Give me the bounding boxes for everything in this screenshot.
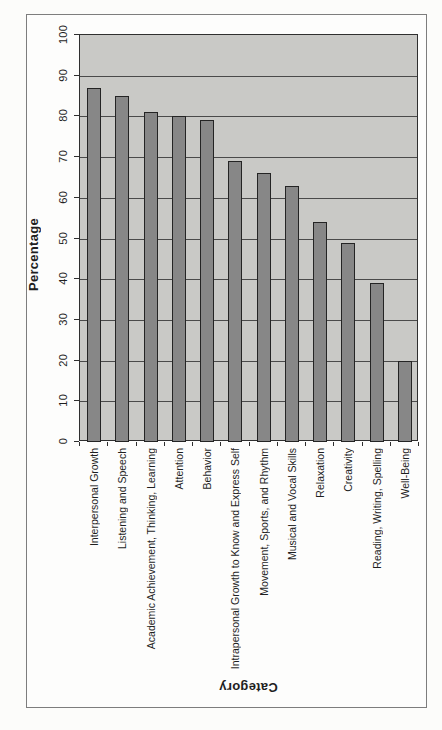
x-category-text: Academic Achievement, Thinking, Learning xyxy=(145,448,157,649)
x-tick-mark xyxy=(249,442,250,446)
y-tick-value: 40 xyxy=(57,272,69,285)
y-tick-value: 0 xyxy=(57,438,69,444)
y-tick-label: 100 xyxy=(51,12,75,56)
x-tick-mark xyxy=(390,442,391,446)
gridline xyxy=(80,279,417,280)
x-category-text: Creativity xyxy=(342,448,354,492)
x-tick-mark xyxy=(220,442,221,446)
gridline xyxy=(80,320,417,321)
x-tick-mark xyxy=(305,442,306,446)
x-category-text: Interpersonal Growth xyxy=(88,448,100,546)
x-category-text: Well-Being xyxy=(399,448,411,499)
plot-area xyxy=(79,34,418,441)
x-category-label: Creativity xyxy=(333,448,362,688)
x-tick-mark xyxy=(418,442,419,446)
bar xyxy=(228,161,242,442)
bar xyxy=(313,222,327,442)
y-tick-value: 10 xyxy=(57,394,69,407)
x-category-text: Movement, Sports, and Rhythm xyxy=(258,448,270,596)
y-tick-value: 20 xyxy=(57,354,69,367)
x-category-text: Relaxation xyxy=(314,448,326,498)
y-tick-mark xyxy=(74,75,79,76)
x-category-label: Relaxation xyxy=(305,448,334,688)
bar xyxy=(200,120,214,442)
y-tick-value: 80 xyxy=(57,109,69,122)
x-category-label: Attention xyxy=(164,448,193,688)
y-tick-label: 30 xyxy=(51,297,75,341)
x-category-label: Movement, Sports, and Rhythm xyxy=(249,448,278,688)
x-category-text: Attention xyxy=(173,448,185,489)
y-tick-label: 50 xyxy=(51,216,75,260)
y-tick-mark xyxy=(74,319,79,320)
y-tick-label: 40 xyxy=(51,256,75,300)
gridline xyxy=(80,76,417,77)
y-axis-title: Percentage xyxy=(26,218,41,291)
y-tick-mark xyxy=(74,238,79,239)
bar xyxy=(257,173,271,442)
x-category-label: Behavior xyxy=(192,448,221,688)
y-tick-value: 50 xyxy=(57,232,69,245)
x-category-label: Reading, Writing, Spelling xyxy=(362,448,391,688)
x-category-label: Well-Being xyxy=(390,448,419,688)
bar xyxy=(341,243,355,442)
y-tick-mark xyxy=(74,278,79,279)
bar xyxy=(172,116,186,442)
y-tick-label: 20 xyxy=(51,338,75,382)
y-tick-mark xyxy=(74,34,79,35)
x-tick-mark xyxy=(277,442,278,446)
bar xyxy=(115,96,129,442)
x-category-text: Listening and Speech xyxy=(116,448,128,549)
y-tick-mark xyxy=(74,400,79,401)
x-category-label: Musical and Vocal Skills xyxy=(277,448,306,688)
x-tick-mark xyxy=(192,442,193,446)
gridline xyxy=(80,116,417,117)
bar xyxy=(370,283,384,442)
x-category-text: Intrapersonal Growth to Know and Express… xyxy=(229,448,241,669)
x-category-label: Intrapersonal Growth to Know and Express… xyxy=(220,448,249,688)
x-tick-mark xyxy=(164,442,165,446)
bar xyxy=(285,186,299,442)
y-tick-value: 60 xyxy=(57,191,69,204)
gridline xyxy=(80,198,417,199)
bar xyxy=(144,112,158,442)
y-tick-label: 90 xyxy=(51,53,75,97)
x-tick-mark xyxy=(362,442,363,446)
page-border-frame: Percentage Category 01020304050607080901… xyxy=(26,14,427,708)
bar xyxy=(87,88,101,442)
y-tick-value: 90 xyxy=(57,69,69,82)
y-tick-label: 10 xyxy=(51,378,75,422)
y-axis-title-box: Percentage xyxy=(19,145,47,365)
x-category-label: Listening and Speech xyxy=(107,448,136,688)
gridline xyxy=(80,239,417,240)
y-tick-label: 80 xyxy=(51,93,75,137)
gridline xyxy=(80,401,417,402)
y-tick-mark xyxy=(74,156,79,157)
y-tick-label: 60 xyxy=(51,175,75,219)
y-tick-label: 0 xyxy=(51,419,75,463)
x-tick-mark xyxy=(136,442,137,446)
x-tick-mark xyxy=(79,442,80,446)
x-category-text: Musical and Vocal Skills xyxy=(286,448,298,560)
y-tick-mark xyxy=(74,115,79,116)
scanned-document-page: Percentage Category 01020304050607080901… xyxy=(0,0,442,730)
bar xyxy=(398,361,412,442)
x-category-text: Reading, Writing, Spelling xyxy=(371,448,383,569)
x-tick-mark xyxy=(333,442,334,446)
x-tick-mark xyxy=(107,442,108,446)
y-tick-label: 70 xyxy=(51,134,75,178)
y-tick-mark xyxy=(74,360,79,361)
gridline xyxy=(80,157,417,158)
gridline xyxy=(80,361,417,362)
y-tick-value: 100 xyxy=(57,25,69,44)
x-category-text: Behavior xyxy=(201,448,213,489)
y-tick-value: 70 xyxy=(57,150,69,163)
y-tick-mark xyxy=(74,197,79,198)
x-category-label: Interpersonal Growth xyxy=(79,448,108,688)
x-category-label: Academic Achievement, Thinking, Learning xyxy=(136,448,165,688)
y-tick-value: 30 xyxy=(57,313,69,326)
